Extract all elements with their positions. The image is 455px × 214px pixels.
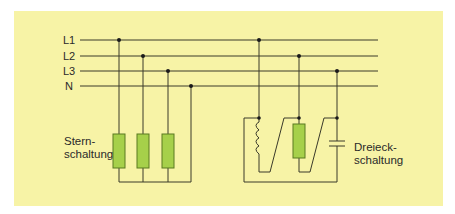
star-resistor-2 [137, 134, 149, 168]
star-connection-label: Stern- schaltung [64, 135, 113, 161]
delta-resistor [293, 124, 305, 158]
star-resistor-3 [162, 134, 174, 168]
delta-connection-label: Dreieck- schaltung [354, 141, 403, 167]
circuit-diagram [0, 0, 455, 214]
star-resistor-1 [113, 134, 125, 168]
